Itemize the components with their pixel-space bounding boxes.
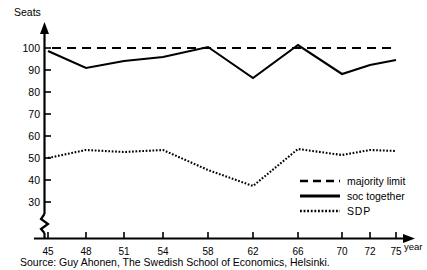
x-axis-title: year bbox=[404, 241, 422, 252]
y-tick-label-30: 30 bbox=[28, 196, 40, 208]
y-axis-break-icon bbox=[41, 214, 48, 233]
seats-line-chart: Seats 100 90 80 70 60 50 40 bbox=[0, 0, 427, 270]
y-tick-label-40: 40 bbox=[28, 174, 40, 186]
source-note: Source: Guy Ahonen, The Swedish School o… bbox=[20, 256, 330, 268]
legend-label-majority-limit: majority limit bbox=[347, 175, 405, 187]
x-tick-label-70: 70 bbox=[336, 246, 348, 257]
y-axis bbox=[40, 22, 49, 239]
series-sdp bbox=[48, 149, 396, 186]
y-tick-label-100: 100 bbox=[22, 42, 40, 54]
y-axis-ticks: 100 90 80 70 60 50 40 30 bbox=[22, 42, 51, 208]
legend-label-sdp: SDP bbox=[347, 205, 371, 217]
y-tick-label-60: 60 bbox=[28, 130, 40, 142]
legend-label-soc-together: soc together bbox=[347, 190, 405, 202]
series-soc-together bbox=[48, 45, 396, 78]
y-tick-label-80: 80 bbox=[28, 86, 40, 98]
x-tick-label-72: 72 bbox=[364, 246, 376, 257]
x-axis-ticks: 45 48 51 54 58 62 66 70 72 75 bbox=[42, 232, 402, 257]
y-axis-title: Seats bbox=[14, 6, 41, 18]
y-tick-label-90: 90 bbox=[28, 64, 40, 76]
y-axis-arrowhead bbox=[40, 22, 49, 34]
chart-figure: Seats 100 90 80 70 60 50 40 bbox=[0, 0, 427, 270]
y-tick-label-50: 50 bbox=[28, 152, 40, 164]
y-tick-label-70: 70 bbox=[28, 108, 40, 120]
x-axis bbox=[34, 234, 415, 243]
chart-legend: majority limit soc together SDP bbox=[300, 175, 405, 217]
x-tick-label-75: 75 bbox=[390, 246, 402, 257]
